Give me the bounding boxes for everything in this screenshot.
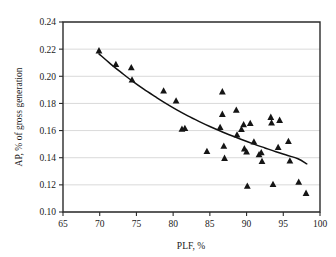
y-tick-label: 0.12 xyxy=(39,180,56,190)
x-tick-label: 75 xyxy=(132,219,142,229)
y-tick-label: 0.14 xyxy=(39,153,56,163)
x-tick-label: 80 xyxy=(168,219,178,229)
x-tick-label: 85 xyxy=(205,219,215,229)
x-axis-title: PLF, % xyxy=(177,241,205,251)
x-tick-label: 100 xyxy=(313,219,328,229)
x-tick-label: 70 xyxy=(95,219,105,229)
chart-container: 65707580859095100 0.100.120.140.160.180.… xyxy=(0,0,336,257)
y-axis-title: AP, % of gross generation xyxy=(14,67,24,166)
x-tick-label: 90 xyxy=(242,219,252,229)
y-tick-label: 0.22 xyxy=(39,45,56,55)
y-tick-label: 0.18 xyxy=(39,99,56,109)
y-tick-label: 0.10 xyxy=(39,207,56,217)
y-tick-label: 0.16 xyxy=(39,126,56,136)
y-tick-label: 0.20 xyxy=(39,72,56,82)
y-tick-label: 0.24 xyxy=(39,17,56,27)
scatter-chart: 65707580859095100 0.100.120.140.160.180.… xyxy=(0,0,336,257)
x-tick-label: 65 xyxy=(58,219,68,229)
x-tick-label: 95 xyxy=(279,219,289,229)
